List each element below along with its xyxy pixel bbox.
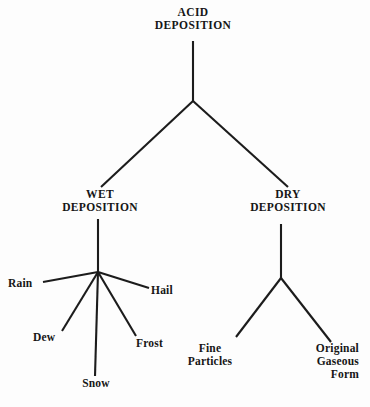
node-snow: Snow [82, 377, 110, 390]
node-wet-deposition: WET DEPOSITION [62, 188, 138, 214]
node-dry-deposition: DRY DEPOSITION [250, 188, 326, 214]
node-fine-particles: Fine Particles [188, 342, 233, 368]
edge-wet-to-dew [62, 272, 98, 331]
edge-wet-to-snow [95, 272, 98, 376]
edge-root-to-dry [193, 101, 288, 187]
edge-dry-to-original-gaseous [281, 278, 331, 342]
node-acid-deposition: ACID DEPOSITION [155, 6, 232, 32]
node-hail: Hail [151, 284, 173, 297]
edge-root-to-wet [101, 101, 193, 187]
node-original-gaseous-form: Original Gaseous Form [316, 342, 359, 381]
node-dew: Dew [33, 331, 55, 344]
node-frost: Frost [136, 337, 163, 350]
node-rain: Rain [8, 277, 32, 290]
edge-wet-to-rain [43, 272, 98, 282]
edge-dry-to-fine-particles [236, 278, 281, 337]
acid-deposition-tree-diagram: ACID DEPOSITION WET DEPOSITION DRY DEPOS… [0, 0, 370, 407]
